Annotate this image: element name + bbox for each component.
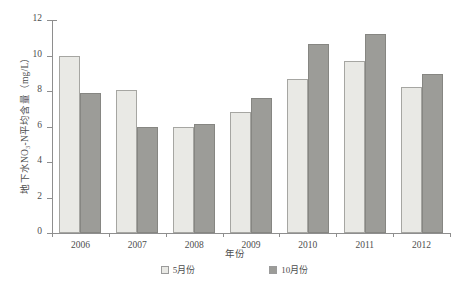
bar [116,90,137,233]
x-axis-tick [223,233,224,237]
y-axis-tick: 12 [47,20,52,21]
y-axis-top-cap [52,20,57,21]
x-axis-tick [450,233,451,237]
legend-swatch-icon [161,266,169,274]
bar [422,74,443,233]
chart-legend: 5月份10月份 [0,263,469,276]
legend-item[interactable]: 10月份 [269,263,308,276]
bar [308,44,329,233]
x-axis-tick [166,233,167,237]
y-axis-tick-label: 10 [33,49,43,59]
y-axis-line [52,20,53,233]
x-axis-tick [279,233,280,237]
y-axis-tick-label: 12 [33,13,43,23]
bar [365,34,386,233]
y-axis-tick-label: 0 [37,226,42,236]
legend-label: 10月份 [281,263,308,276]
y-axis-tick: 6 [47,127,52,128]
bar [173,127,194,233]
bar [251,98,272,233]
y-axis-tick-label: 6 [37,120,42,130]
legend-item[interactable]: 5月份 [161,263,196,276]
x-axis-line [52,233,450,234]
y-axis-title: 地下水NO₃-N平均含量（mg/L） [17,23,31,223]
bar [80,93,101,233]
y-axis-tick: 8 [47,91,52,92]
y-axis-tick-label: 8 [37,84,42,94]
x-axis-title: 年份 [0,246,469,260]
y-axis-tick: 4 [47,162,52,163]
bar-chart: 地下水NO₃-N平均含量（mg/L） 024681012200620072008… [0,0,469,288]
x-axis-tick [109,233,110,237]
bar [137,127,158,234]
y-axis-tick-label: 2 [37,191,42,201]
bar [59,56,80,234]
bar [287,79,308,233]
x-axis-tick [52,233,53,237]
y-axis-tick: 2 [47,198,52,199]
bar [401,87,422,233]
x-axis-tick [336,233,337,237]
legend-label: 5月份 [173,263,196,276]
y-axis-tick: 10 [47,56,52,57]
bar [194,124,215,233]
bar [230,112,251,233]
legend-swatch-icon [269,266,277,274]
bar [344,61,365,233]
y-axis-tick-label: 4 [37,155,42,165]
x-axis-tick [393,233,394,237]
plot-area: 0246810122006200720082009201020112012 [52,20,450,233]
